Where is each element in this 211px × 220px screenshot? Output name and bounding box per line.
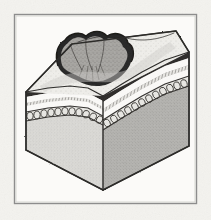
block-diagram-illustration [0, 0, 211, 220]
figure-root: Anatomical block diagram of skin cross-s… [0, 0, 211, 220]
